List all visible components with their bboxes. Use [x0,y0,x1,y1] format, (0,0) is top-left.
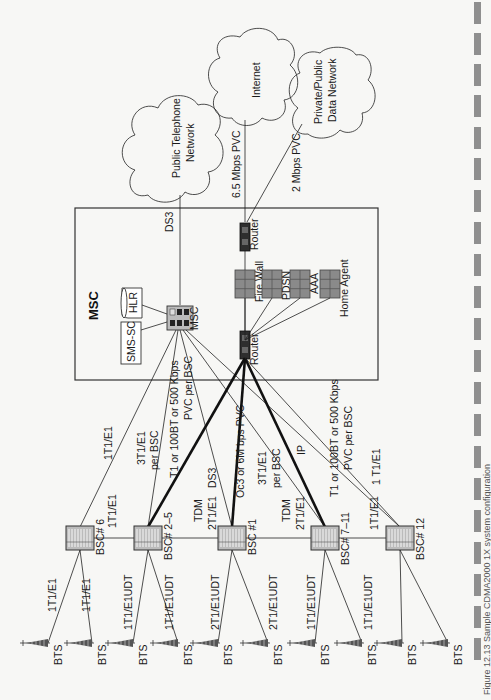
bsc-7-11-label: BSC# 7–11 [339,512,351,565]
label-bsc711-router: IP [295,445,307,455]
bsc-12-icon [386,526,414,550]
label-bsc1-router: Oc3 or 6M bps PVC [234,404,246,498]
bts-link-label-1: 1T1/E1 [46,578,58,612]
bts-link-label-3: 1T1/E1UDT [122,574,134,630]
bts-tower-icon [190,639,220,647]
label-bsc711-msc-2: per BSC [270,448,282,488]
link-hlr-msc [142,305,167,314]
label-bsc25-msc-2: per BSC [148,430,160,470]
label-bsc25-bsc1-2: 2T1/E1 [206,496,218,530]
router-top-label: Router [248,218,260,250]
label-bsc1-bsc711-2: 2T1/E1 [294,496,306,530]
label-bsc6-msc: 1T1/E1 [102,426,114,460]
margin-bars [474,2,481,660]
label-bsc12-router-1: T1 or 100BT or 500 Kbps [328,379,340,497]
label-bsc12-msc: 1 T1/E1 [370,448,382,485]
bts-tower-icon [240,639,270,647]
sms-sc-label: SMS-SC [125,321,137,362]
server-pdsn-icon [262,270,282,298]
network-diagram: Figure 12.13 Sample CDMA2000 1X system c… [0,0,491,700]
bts-tower-icon [420,639,450,647]
bts-tower-icon [287,639,317,647]
cloud-pdn-label-1: Private/Public [312,60,324,124]
bts-label: BTS [182,645,194,665]
bsc-12-label: BSC# 12 [414,518,426,560]
bsc-2-5-icon [134,526,162,550]
figure-caption: Figure 12.13 Sample CDMA2000 1X system c… [482,464,491,695]
bts-tower-icon [105,639,135,647]
bts-link-label-8: 1T1/E1UDT [362,574,374,630]
server-home-agent-label: Home Agent [338,259,350,317]
server-firewall-icon [235,270,255,298]
cloud-pstn-label-2: Network [184,123,196,162]
bts-link-label-4: 1T1/E1UDT [163,574,175,630]
bts-link-label-5: 2T1/E1UDT [209,574,221,630]
server-aaa-icon [290,270,310,298]
bsc-2-5-label: BSC# 2–5 [162,512,174,560]
label-bsc12-router-2: PVC per BSC [342,405,354,470]
bts-tower-icon [334,639,364,647]
cloud-pstn: Public Telephone Network [122,96,223,203]
link-internet-label: 6.5 Mbps PVC [230,130,242,198]
bts-label: BTS [222,645,234,665]
label-bsc711-bsc12: 1T1/E1 [368,496,380,530]
link-pstn-label: DS3 [163,211,175,232]
label-bsc25-router-1: T1 or 100BT or 500 Kbps [168,360,180,478]
cloud-pdn-label-2: Data Network [326,58,338,122]
bts-tower-icon [64,639,94,647]
bts-label: BTS [96,645,108,665]
bts-tower-icon [374,639,404,647]
bts-label: BTS [452,645,464,665]
bts-links [48,550,448,643]
bts-tower-icon [150,639,180,647]
bts-link-label-7: 1T1/E1UDT [305,574,317,630]
bts-label: BTS [272,645,284,665]
bts-link-label-2: 1T1/E1 [80,578,92,612]
label-bsc711-msc-1: 3T1/E1 [256,451,268,485]
bsc-6-label: BSC# 6 [94,519,106,555]
bts-label: BTS [366,645,378,665]
bts-label: BTS [137,645,149,665]
server-aaa-label: AAA [308,273,320,294]
server-links [245,298,330,340]
msc-switch-label: MSC [188,306,200,330]
bsc-1-label: BSC #1 [246,519,258,555]
label-bsc1-msc: DS3 [206,467,218,488]
link-sms-msc [141,322,167,330]
server-home-agent-icon [320,270,340,298]
label-bsc6-bsc25: 1T1/E1 [106,494,118,528]
bsc-1-icon [218,526,246,550]
label-bsc25-msc-1: 3T1/E1 [135,431,147,465]
bts-link-label-6: 2T1/E1UDT [267,574,279,630]
link-pdn-label: 2 Mbps PVC [290,133,302,192]
bts-label: BTS [52,645,64,665]
label-bsc25-router-2: PVC per BSC [182,355,194,420]
label-bsc25-bsc1-1: TDM [192,499,204,522]
cloud-internet: Internet [208,28,297,125]
bts-label: BTS [319,645,331,665]
bsc-6-icon [66,526,94,550]
msc-box-title: MSC [86,291,101,321]
cloud-internet-label: Internet [250,62,262,98]
label-bsc1-bsc711-1: TDM [280,499,292,522]
bts-label: BTS [406,645,418,665]
cloud-pstn-label-1: Public Telephone [170,98,182,178]
bsc-7-11-icon [311,526,339,550]
bts-tower-icon [20,639,50,647]
hlr-label: HLR [127,292,139,313]
